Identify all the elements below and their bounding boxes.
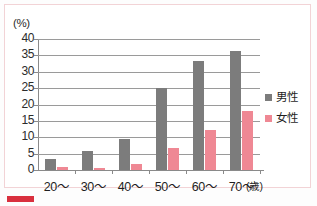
y-tick-label: 15 (10, 113, 34, 127)
y-tick-mark (34, 121, 38, 122)
bar-group (82, 39, 105, 170)
y-tick-label: 35 (10, 47, 34, 61)
bar-female (131, 164, 142, 170)
legend-item: 男性 (265, 92, 297, 104)
y-tick-mark (34, 72, 38, 73)
bar-female (168, 148, 179, 170)
bar-group (156, 39, 179, 170)
y-tick-label: 0 (10, 162, 34, 176)
bar-female (205, 130, 216, 170)
bar-group (230, 39, 253, 170)
y-tick-label: 20 (10, 97, 34, 111)
y-tick-mark (34, 39, 38, 40)
legend-label: 女性 (276, 113, 297, 125)
x-tick-mark (223, 170, 224, 174)
bar-female (242, 111, 253, 170)
x-tick-mark (260, 170, 261, 174)
gridline (38, 105, 260, 106)
bar-group (119, 39, 142, 170)
x-tick-mark (186, 170, 187, 174)
gridline (38, 55, 260, 56)
x-axis-line (38, 170, 264, 171)
legend-swatch-icon (265, 115, 272, 122)
bar-group (45, 39, 68, 170)
y-tick-mark (34, 137, 38, 138)
x-tick-mark (75, 170, 76, 174)
bar-group (193, 39, 216, 170)
chart-screenshot: (%) 0510152025303540 20～30～40～50～60～70～ … (0, 0, 317, 206)
bar-female (57, 167, 68, 170)
red-marker (7, 196, 34, 202)
y-tick-mark (34, 170, 38, 171)
x-tick-mark (149, 170, 150, 174)
y-tick-mark (34, 154, 38, 155)
bar-male (156, 88, 167, 170)
legend-item: 女性 (265, 113, 297, 125)
gridline (38, 154, 260, 155)
gridline (38, 39, 260, 40)
bar-male (45, 159, 56, 170)
plot-area (38, 39, 260, 170)
y-tick-label: 5 (10, 146, 34, 160)
legend-label: 男性 (276, 92, 297, 104)
y-tick-label: 10 (10, 129, 34, 143)
gridline (38, 72, 260, 73)
y-tick-label: 25 (10, 80, 34, 94)
bar-male (193, 61, 204, 170)
gridline (38, 121, 260, 122)
y-tick-mark (34, 88, 38, 89)
legend-swatch-icon (265, 94, 272, 101)
x-axis-unit-label: (歳) (246, 178, 263, 193)
bar-female (94, 168, 105, 170)
bar-male (230, 51, 241, 170)
y-tick-mark (34, 105, 38, 106)
y-tick-label: 40 (10, 31, 34, 45)
gridline (38, 88, 260, 89)
y-tick-label: 30 (10, 64, 34, 78)
bar-male (119, 139, 130, 170)
chart-legend: 男性女性 (265, 92, 297, 133)
y-tick-mark (34, 55, 38, 56)
gridline (38, 137, 260, 138)
x-tick-mark (112, 170, 113, 174)
bar-male (82, 151, 93, 170)
